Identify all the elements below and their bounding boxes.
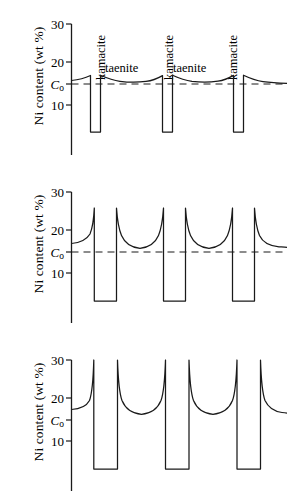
panel-middle-plot [0, 168, 293, 336]
panel-bottom: Ni content (wt %) 30 20 Co 10 [0, 336, 293, 504]
panel-top: Ni content (wt %) 30 20 Co 10 kamacite k… [0, 0, 293, 168]
ni-profile-curve-bottom [72, 360, 288, 469]
ni-profile-curve-middle [72, 208, 288, 301]
ni-content-figure: Ni content (wt %) 30 20 Co 10 kamacite k… [0, 0, 293, 504]
panel-top-plot [0, 0, 293, 168]
panel-bottom-plot [0, 336, 293, 504]
panel-middle: Ni content (wt %) 30 20 Co 10 [0, 168, 293, 336]
